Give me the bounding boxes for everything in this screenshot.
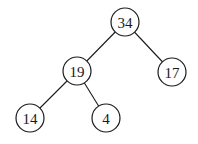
edges-layer xyxy=(30,22,172,118)
tree-node-14: 14 xyxy=(16,104,44,132)
tree-node-17: 17 xyxy=(158,58,186,86)
node-label: 19 xyxy=(70,64,85,80)
node-label: 17 xyxy=(165,65,181,81)
tree-node-34: 34 xyxy=(111,8,139,36)
node-label: 4 xyxy=(102,111,110,127)
nodes-layer: 341917144 xyxy=(16,8,186,132)
node-label: 14 xyxy=(23,111,39,127)
tree-node-4: 4 xyxy=(92,104,120,132)
node-label: 34 xyxy=(118,15,134,31)
binary-tree-diagram: 341917144 xyxy=(0,0,198,144)
tree-node-19: 19 xyxy=(63,57,91,85)
